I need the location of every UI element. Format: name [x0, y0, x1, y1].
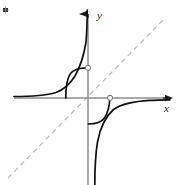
- curve-upper-left-tail: [14, 10, 87, 97]
- curve-lower-right-inner: [88, 98, 109, 124]
- lower-open-circle-marker: [107, 95, 112, 100]
- curve-lower-right-tail: [95, 100, 170, 185]
- math-graph-figure: y x: [0, 0, 177, 185]
- corner-tick-icon: [2, 6, 9, 14]
- y-axis-label: y: [96, 9, 102, 21]
- x-axis-label: x: [163, 102, 169, 114]
- graph-canvas: y x: [0, 0, 177, 185]
- upper-open-circle-marker: [85, 65, 90, 70]
